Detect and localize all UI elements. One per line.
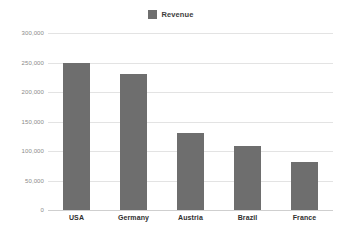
bar-france[interactable]	[291, 162, 318, 210]
y-tick-label-150000: 150,000	[22, 119, 44, 125]
bar-brazil[interactable]	[234, 146, 261, 210]
square-swatch-icon	[148, 10, 157, 19]
x-tick-label-germany: Germany	[118, 214, 149, 221]
bar-usa[interactable]	[63, 63, 90, 211]
y-tick-label-300000: 300,000	[22, 30, 44, 36]
y-axis: 050,000100,000150,000200,000250,000300,0…	[0, 33, 44, 210]
x-tick-label-brazil: Brazil	[238, 214, 258, 221]
bar-chart: Revenue 050,000100,000150,000200,000250,…	[0, 0, 341, 240]
x-tick-label-usa: USA	[69, 214, 84, 221]
bar-austria[interactable]	[177, 133, 204, 210]
y-tick-label-0: 0	[41, 207, 44, 213]
chart-legend: Revenue	[0, 10, 341, 19]
legend-entry-revenue[interactable]: Revenue	[148, 10, 194, 19]
x-axis: USAGermanyAustriaBrazilFrance	[48, 212, 333, 228]
x-tick-label-france: France	[293, 214, 317, 221]
gridline-0	[48, 210, 333, 211]
y-tick-label-50000: 50,000	[25, 178, 44, 184]
y-tick-label-100000: 100,000	[22, 148, 44, 154]
bars-layer	[48, 33, 333, 210]
y-tick-label-250000: 250,000	[22, 60, 44, 66]
x-tick-label-austria: Austria	[178, 214, 203, 221]
bar-germany[interactable]	[120, 74, 147, 210]
legend-label-revenue: Revenue	[162, 10, 194, 19]
y-tick-label-200000: 200,000	[22, 89, 44, 95]
